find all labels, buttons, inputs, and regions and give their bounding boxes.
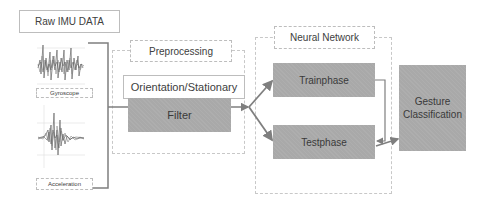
sensor-bracket (88, 43, 108, 188)
neural-network-title-box: Neural Network (274, 26, 375, 49)
filter-label: Filter (167, 109, 191, 121)
gesture-classification-label: Gesture Classification (403, 95, 463, 121)
gesture-classification-box: Gesture Classification (399, 65, 466, 151)
trainphase-box: Trainphase (273, 63, 375, 97)
gyroscope-plot (37, 45, 85, 84)
train-to-test-arrow (375, 80, 385, 141)
raw-imu-data-label: Raw IMU DATA (35, 16, 104, 27)
fork-to-train-arrow (249, 81, 272, 107)
neural-network-title: Neural Network (290, 32, 359, 43)
preprocessing-title: Preprocessing (149, 46, 213, 57)
filter-box: Filter (128, 98, 231, 132)
raw-imu-data-box: Raw IMU DATA (19, 10, 120, 33)
acceleration-label: Acceleration (48, 181, 81, 187)
orientation-stationary-label: Orientation/Stationary (131, 81, 237, 93)
fork-to-test-arrow (249, 107, 272, 140)
preprocessing-title-box: Preprocessing (130, 40, 232, 62)
testphase-label: Testphase (301, 137, 347, 148)
gyroscope-label: Gyroscope (50, 90, 79, 96)
test-to-gesture-arrow (376, 139, 398, 146)
acceleration-plot (37, 105, 85, 168)
acceleration-label-box: Acceleration (36, 178, 93, 190)
trainphase-label: Trainphase (299, 75, 349, 86)
gyroscope-label-box: Gyroscope (36, 88, 93, 98)
testphase-box: Testphase (273, 125, 375, 159)
orientation-stationary-box: Orientation/Stationary (123, 75, 245, 99)
